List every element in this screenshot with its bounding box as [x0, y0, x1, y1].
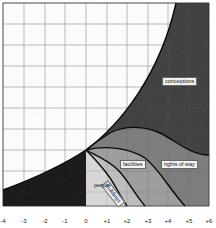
- label-facilities: facilities: [120, 160, 146, 169]
- x-tick: +1: [104, 218, 111, 224]
- x-tick: 0: [84, 218, 87, 224]
- label-conceptions: conceptions: [162, 77, 197, 86]
- label-people: people: [92, 182, 113, 189]
- x-tick: +3: [145, 218, 152, 224]
- x-tick: -1: [62, 218, 67, 224]
- label-rights-of-way: rights of way: [161, 160, 198, 169]
- x-tick: +2: [124, 218, 131, 224]
- x-tick: -4: [0, 218, 5, 224]
- x-tick: +5: [186, 218, 193, 224]
- x-tick: -2: [42, 218, 47, 224]
- x-tick: -3: [21, 218, 26, 224]
- x-tick: +6: [206, 218, 213, 224]
- x-tick: +4: [165, 218, 172, 224]
